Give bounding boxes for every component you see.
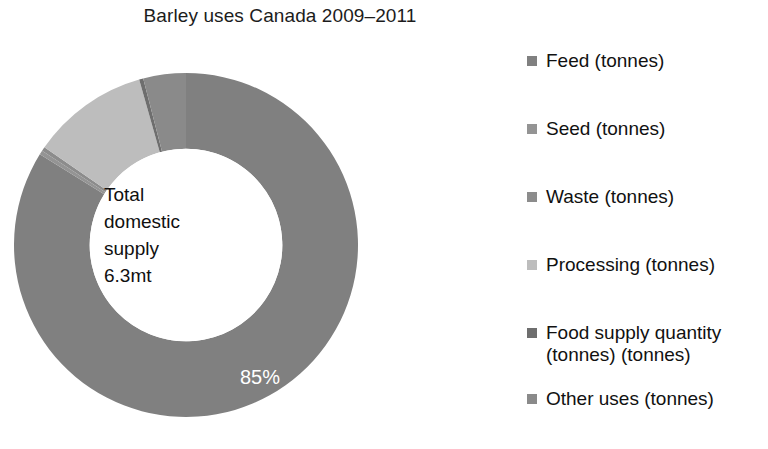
donut-slice-label: 11% xyxy=(151,189,190,211)
donut-chart: 85%0%11%0%4% xyxy=(14,73,358,417)
legend-swatch-icon xyxy=(527,394,537,404)
legend-swatch-icon xyxy=(527,124,537,134)
donut-slice-label: 4% xyxy=(104,274,133,296)
legend-swatch-icon xyxy=(527,260,537,270)
chart-page: Barley uses Canada 2009–2011 85%0%11%0%4… xyxy=(0,0,768,449)
page-title: Barley uses Canada 2009–2011 xyxy=(0,4,560,28)
donut-slice-label: 85% xyxy=(240,366,280,388)
legend-item-label: Processing (tonnes) xyxy=(546,254,715,276)
legend-item[interactable]: Seed (tonnes) xyxy=(527,118,665,140)
legend-item[interactable]: Other uses (tonnes) xyxy=(527,388,714,410)
donut-slice-label: 0% xyxy=(108,243,137,265)
donut-chart-svg: 85%0%11%0%4% xyxy=(14,73,358,417)
legend-swatch-icon xyxy=(527,328,537,338)
legend-swatch-icon xyxy=(527,56,537,66)
legend-item[interactable]: Feed (tonnes) xyxy=(527,50,664,72)
legend-item-label: Other uses (tonnes) xyxy=(546,388,714,410)
legend-item[interactable]: Waste (tonnes) xyxy=(527,186,674,208)
legend-swatch-icon xyxy=(527,192,537,202)
legend-item[interactable]: Food supply quantity (tonnes) (tonnes) xyxy=(527,322,721,366)
legend-item-label: Waste (tonnes) xyxy=(546,186,674,208)
legend-item-label: Feed (tonnes) xyxy=(546,50,664,72)
legend-item[interactable]: Processing (tonnes) xyxy=(527,254,715,276)
donut-slice-label: 0% xyxy=(204,185,233,207)
legend-item-label: Seed (tonnes) xyxy=(546,118,665,140)
legend-item-label: Food supply quantity (tonnes) (tonnes) xyxy=(546,322,721,366)
